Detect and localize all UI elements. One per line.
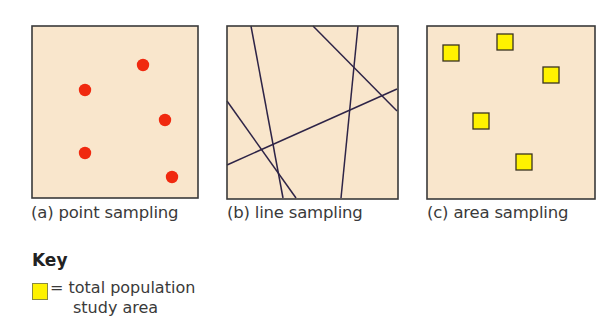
line-sampling-diagram bbox=[226, 25, 399, 200]
key-line-1: = total population bbox=[50, 278, 195, 297]
line-sampling-panel bbox=[226, 25, 399, 200]
quadrat-square bbox=[516, 154, 532, 170]
sample-point bbox=[79, 147, 91, 159]
panel-background bbox=[227, 26, 398, 199]
point-sampling-diagram bbox=[31, 25, 199, 199]
quadrat-square bbox=[473, 113, 489, 129]
quadrat-square bbox=[543, 67, 559, 83]
point-sampling-caption: (a) point sampling bbox=[31, 203, 178, 222]
sample-point bbox=[159, 114, 171, 126]
line-sampling-caption: (b) line sampling bbox=[227, 203, 363, 222]
area-sampling-diagram bbox=[426, 25, 596, 200]
key-title: Key bbox=[32, 250, 68, 270]
quadrat-square bbox=[443, 45, 459, 61]
point-sampling-panel bbox=[31, 25, 199, 199]
sample-point bbox=[79, 84, 91, 96]
sample-point bbox=[166, 171, 178, 183]
quadrat-square bbox=[497, 34, 513, 50]
study-area-swatch-icon bbox=[32, 283, 48, 300]
sample-point bbox=[137, 59, 149, 71]
area-sampling-caption: (c) area sampling bbox=[427, 203, 568, 222]
key-line-2: study area bbox=[50, 298, 195, 318]
key-description: = total population study area bbox=[50, 278, 195, 318]
area-sampling-panel bbox=[426, 25, 596, 200]
